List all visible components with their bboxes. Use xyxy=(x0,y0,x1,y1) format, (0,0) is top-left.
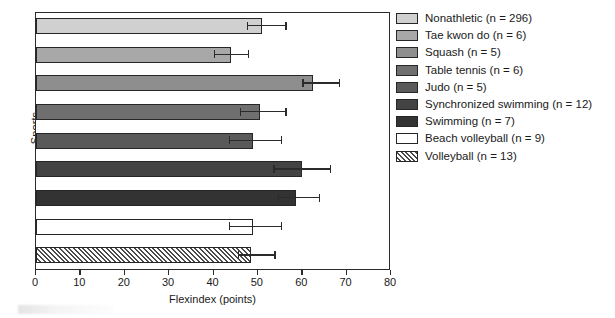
legend-item[interactable]: Beach volleyball (n = 9) xyxy=(396,130,612,147)
bar-row xyxy=(36,130,391,158)
x-axis-tick-label: 70 xyxy=(326,276,366,288)
legend-item-label: Tae kwon do (n = 6) xyxy=(425,29,526,42)
legend-item-label: Squash (n = 5) xyxy=(425,46,501,59)
error-bar-cap-high xyxy=(285,108,286,116)
error-bar-cap-high xyxy=(248,50,249,58)
bar-row xyxy=(36,15,391,43)
error-bar-line xyxy=(214,54,250,55)
bar-row xyxy=(36,244,391,272)
x-axis-tick-label: 40 xyxy=(193,276,233,288)
x-axis-tick xyxy=(213,270,214,275)
legend-item[interactable]: Nonathletic (n = 296) xyxy=(396,10,612,27)
x-axis-tick-label: 60 xyxy=(281,276,321,288)
error-bar-cap-high xyxy=(281,136,282,144)
x-axis-tick xyxy=(79,270,80,275)
x-axis-tick-label: 50 xyxy=(237,276,277,288)
bar xyxy=(36,75,313,91)
bar-row xyxy=(36,187,391,215)
bar xyxy=(36,133,253,149)
x-axis-tick-label: 30 xyxy=(148,276,188,288)
legend-item[interactable]: Table tennis (n = 6) xyxy=(396,62,612,79)
legend-item[interactable]: Judo (n = 5) xyxy=(396,79,612,96)
error-bar-cap-low xyxy=(214,50,215,58)
error-bar-cap-high xyxy=(319,194,320,202)
error-bar-cap-low xyxy=(302,79,303,87)
x-axis-tick xyxy=(390,270,391,275)
bar-row xyxy=(36,72,391,100)
error-bar-line xyxy=(229,140,282,141)
bar-row xyxy=(36,158,391,186)
x-axis-tick-label: 0 xyxy=(15,276,55,288)
legend-swatch-icon xyxy=(396,65,418,76)
legend-item-label: Volleyball (n = 13) xyxy=(425,150,517,163)
x-axis-tick xyxy=(168,270,169,275)
legend-swatch-icon xyxy=(396,99,418,110)
x-axis-title: Flexindex (points) xyxy=(35,293,390,305)
bar xyxy=(36,219,253,235)
x-axis-tick xyxy=(257,270,258,275)
bar xyxy=(36,247,251,263)
error-bar-line xyxy=(238,254,276,255)
error-bar-line xyxy=(247,25,287,26)
bar-row xyxy=(36,44,391,72)
error-bar-cap-high xyxy=(281,222,282,230)
bar xyxy=(36,161,302,177)
bars-layer xyxy=(36,13,389,269)
error-bar-cap-high xyxy=(339,79,340,87)
x-axis-tick-label: 10 xyxy=(59,276,99,288)
bar-row xyxy=(36,216,391,244)
plot-area xyxy=(35,12,390,270)
error-bar-cap-low xyxy=(240,108,241,116)
bar xyxy=(36,47,231,63)
error-bar-line xyxy=(273,168,331,169)
error-bar-cap-low xyxy=(278,194,279,202)
error-bar-cap-low xyxy=(238,251,239,259)
bar xyxy=(36,104,260,120)
x-axis-tick xyxy=(301,270,302,275)
x-axis-ticks: 01020304050607080 xyxy=(35,270,390,276)
x-axis-tick xyxy=(346,270,347,275)
legend-item[interactable]: Volleyball (n = 13) xyxy=(396,148,612,165)
error-bar-line xyxy=(278,197,320,198)
legend-item-label: Swimming (n = 7) xyxy=(425,115,515,128)
error-bar-line xyxy=(302,82,340,83)
legend-swatch-icon xyxy=(396,47,418,58)
legend-item[interactable]: Swimming (n = 7) xyxy=(396,113,612,130)
legend-swatch-icon xyxy=(396,13,418,24)
legend-swatch-icon xyxy=(396,82,418,93)
legend-item-label: Table tennis (n = 6) xyxy=(425,64,523,77)
bar xyxy=(36,190,296,206)
error-bar-line xyxy=(240,111,287,112)
error-bar-cap-low xyxy=(229,136,230,144)
error-bar-cap-low xyxy=(247,22,248,30)
x-axis-tick xyxy=(124,270,125,275)
legend-item[interactable]: Synchronized swimming (n = 12) xyxy=(396,96,612,113)
error-bar-line xyxy=(229,226,282,227)
legend-item-label: Beach volleyball (n = 9) xyxy=(425,132,545,145)
x-axis-tick-label: 20 xyxy=(104,276,144,288)
legend-swatch-icon xyxy=(396,151,418,162)
error-bar-cap-low xyxy=(273,165,274,173)
legend-item[interactable]: Tae kwon do (n = 6) xyxy=(396,27,612,44)
error-bar-cap-high xyxy=(330,165,331,173)
chart-legend: Nonathletic (n = 296)Tae kwon do (n = 6)… xyxy=(396,10,612,165)
legend-swatch-icon xyxy=(396,30,418,41)
legend-swatch-icon xyxy=(396,133,418,144)
error-bar-cap-high xyxy=(274,251,275,259)
chart-figure: Sports 01020304050607080 Flexindex (poin… xyxy=(0,0,615,318)
legend-item-label: Nonathletic (n = 296) xyxy=(425,12,532,25)
bar xyxy=(36,18,262,34)
bar-row xyxy=(36,101,391,129)
legend-swatch-icon xyxy=(396,116,418,127)
error-bar-cap-low xyxy=(229,222,230,230)
x-axis-tick-label: 80 xyxy=(370,276,410,288)
legend-item-label: Synchronized swimming (n = 12) xyxy=(425,98,592,111)
scan-artifact xyxy=(18,305,114,314)
x-axis-tick xyxy=(35,270,36,275)
error-bar-cap-high xyxy=(285,22,286,30)
legend-item[interactable]: Squash (n = 5) xyxy=(396,44,612,61)
legend-item-label: Judo (n = 5) xyxy=(425,81,487,94)
